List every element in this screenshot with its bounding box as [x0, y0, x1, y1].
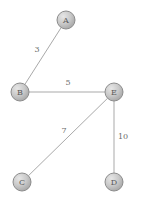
node-label-e: E [111, 88, 117, 97]
graph-canvas: 35710 ABCDE [0, 0, 143, 204]
graph-node-d: D [105, 173, 123, 191]
node-label-d: D [111, 178, 117, 187]
graph-node-a: A [57, 11, 75, 29]
graph-node-e: E [105, 83, 123, 101]
graph-node-c: C [13, 173, 31, 191]
edge-weight-label-b-e: 5 [65, 78, 70, 87]
node-label-b: B [17, 88, 23, 97]
graph-figure: 35710 ABCDE [0, 0, 143, 204]
node-label-a: A [62, 16, 69, 25]
edge-weight-label-c-e: 7 [61, 126, 66, 135]
nodes-layer: ABCDE [11, 11, 123, 191]
edge-weight-label-a-b: 3 [34, 45, 39, 54]
graph-edge-c-e [28, 98, 107, 175]
edge-weight-label-d-e: 10 [118, 132, 128, 141]
node-label-c: C [19, 178, 25, 187]
graph-node-b: B [11, 83, 29, 101]
graph-edge-a-b [25, 28, 61, 85]
